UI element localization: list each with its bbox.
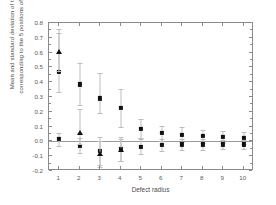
x-tick-mark (79, 166, 80, 169)
y-minor-tick (49, 103, 51, 104)
y-minor-tick-right (250, 59, 252, 60)
y-tick-mark (49, 66, 52, 67)
data-point-triangle (118, 147, 124, 152)
x-tick-mark (58, 166, 59, 169)
error-bar-cap-lower (200, 150, 205, 151)
x-tick-mark (140, 166, 141, 169)
y-tick-mark (49, 81, 52, 82)
error-bar-cap-upper (180, 127, 185, 128)
data-point-square (221, 142, 225, 146)
y-tick-label: 0.7 (34, 33, 43, 40)
x-tick-mark-top (243, 23, 244, 26)
y-minor-tick-right (250, 44, 252, 45)
x-tick-label: 10 (239, 174, 246, 181)
error-bar-cap-upper (180, 139, 185, 140)
error-bar-cap-upper (98, 73, 103, 74)
y-tick-mark (49, 155, 52, 156)
error-bar (100, 73, 101, 114)
x-tick-mark-top (58, 23, 59, 26)
y-tick-label: 0.5 (34, 63, 43, 70)
y-tick-mark (49, 96, 52, 97)
data-point-square (201, 134, 205, 138)
x-tick-mark-top (99, 23, 100, 26)
x-tick-mark-top (222, 23, 223, 26)
data-point-square (201, 142, 205, 146)
y-minor-tick-right (250, 163, 252, 164)
y-minor-tick (49, 133, 51, 134)
data-point-square (242, 142, 246, 146)
y-tick-mark-right (249, 155, 252, 156)
plot-area (48, 22, 253, 170)
x-tick-mark (120, 166, 121, 169)
y-minor-tick-right (250, 74, 252, 75)
y-tick-mark (49, 22, 52, 23)
x-tick-mark (161, 166, 162, 169)
error-bar-cap-lower (139, 154, 144, 155)
error-bar-cap-upper (221, 131, 226, 132)
y-minor-tick (49, 148, 51, 149)
y-minor-tick (49, 59, 51, 60)
error-bar-cap-upper (57, 29, 62, 30)
error-bar-cap-upper (57, 133, 62, 134)
y-tick-mark-right (249, 140, 252, 141)
error-bar-cap-upper (118, 139, 123, 140)
error-bar-cap-upper (241, 140, 246, 141)
y-tick-mark (49, 37, 52, 38)
data-point-triangle (77, 130, 83, 135)
data-point-square (180, 133, 184, 137)
y-minor-tick (49, 29, 51, 30)
error-bar-cap-upper (221, 140, 226, 141)
error-bar-cap-lower (98, 113, 103, 114)
error-bar-cap-lower (57, 146, 62, 147)
x-tick-mark-top (79, 23, 80, 26)
error-bar-cap-upper (200, 130, 205, 131)
error-bar-cap-lower (57, 92, 62, 93)
error-bar (79, 109, 80, 145)
y-tick-mark-right (249, 66, 252, 67)
error-bar-cap-lower (77, 153, 82, 154)
x-tick-label: 5 (139, 174, 142, 181)
y-minor-tick-right (250, 29, 252, 30)
y-axis-label-wrapper: Mean and standard deviation of the 5 (s.… (8, 0, 30, 106)
x-tick-label: 6 (159, 174, 162, 181)
y-minor-tick (49, 163, 51, 164)
y-tick-mark-right (249, 111, 252, 112)
y-tick-mark (49, 170, 52, 171)
error-bar-cap-upper (98, 141, 103, 142)
error-bar-cap-upper (159, 126, 164, 127)
y-tick-label: 0.3 (34, 93, 43, 100)
data-point-triangle (97, 151, 103, 156)
x-tick-mark (243, 166, 244, 169)
y-tick-label: -0.1 (32, 152, 43, 159)
y-minor-tick-right (250, 103, 252, 104)
x-tick-label: 7 (180, 174, 183, 181)
error-bar-cap-lower (77, 105, 82, 106)
y-tick-mark-right (249, 81, 252, 82)
y-tick-label: 0.4 (34, 78, 43, 85)
data-point-square (180, 142, 184, 146)
error-bar-cap-upper (139, 119, 144, 120)
x-tick-mark-top (120, 23, 121, 26)
data-point-square (160, 131, 164, 135)
y-tick-mark (49, 126, 52, 127)
error-bar-cap-lower (77, 144, 82, 145)
data-point-square (221, 135, 225, 139)
y-tick-mark-right (249, 37, 252, 38)
error-bar-cap-lower (180, 150, 185, 151)
y-tick-mark-right (249, 52, 252, 53)
y-tick-mark-right (249, 126, 252, 127)
y-minor-tick-right (250, 118, 252, 119)
y-minor-tick (49, 118, 51, 119)
data-point-square (78, 82, 82, 86)
y-tick-label: 0.6 (34, 48, 43, 55)
error-bar-cap-upper (200, 139, 205, 140)
error-bar-cap-upper (77, 109, 82, 110)
x-tick-mark-top (181, 23, 182, 26)
data-point-square (98, 96, 102, 100)
x-tick-mark (222, 166, 223, 169)
y-tick-label: 0.8 (34, 19, 43, 26)
x-axis-label: Defect radius (48, 186, 253, 193)
data-point-triangle (56, 49, 62, 54)
x-tick-label: 3 (98, 174, 101, 181)
x-tick-label: 8 (200, 174, 203, 181)
